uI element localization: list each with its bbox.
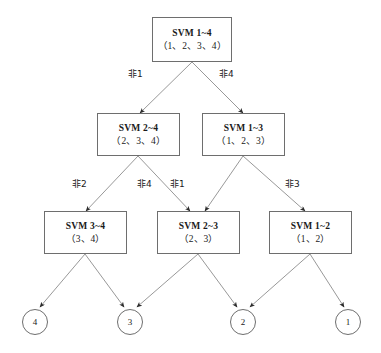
leaf-node-leaf3[interactable]: 3 [117,309,143,335]
leaf-node-label: 1 [346,318,351,327]
edge-svm14-to-svm24 [140,62,192,113]
svm-node-svm14[interactable]: SVM 1~4（1、2、3、4） [152,17,232,62]
leaf-node-leaf2[interactable]: 2 [230,309,256,335]
svm-node-class-set: （1、2） [291,233,331,246]
svm-node-svm24[interactable]: SVM 2~4（2、3、4） [97,113,180,156]
edge-svm14-to-svm13 [192,62,243,113]
svm-node-svm23[interactable]: SVM 2~3（2、3） [157,211,240,254]
leaf-node-leaf1[interactable]: 1 [335,309,361,335]
leaf-node-label: 4 [33,318,38,327]
svm-node-title: SVM 3~4 [66,220,105,233]
svm-node-title: SVM 2~4 [119,122,158,135]
edge-label-e-not3-mid: 非3 [285,180,300,189]
svm-node-class-set: （2、3） [179,233,219,246]
leaf-node-leaf4[interactable]: 4 [22,309,48,335]
edge-svm34-to-leaf4 [40,254,85,307]
svm-node-title: SVM 1~3 [224,122,263,135]
edge-svm24-to-svm34 [86,156,138,211]
edge-svm12-to-leaf1 [310,254,344,307]
svm-node-class-set: （1、2、3、4） [158,40,227,53]
svm-node-title: SVM 1~2 [291,220,330,233]
edge-label-e-not4-top: 非4 [219,70,234,79]
svm-node-svm12[interactable]: SVM 1~2（1、2） [269,211,352,254]
edge-label-e-not2-mid: 非2 [72,180,87,189]
svm-node-svm13[interactable]: SVM 1~3（1、2、3） [202,113,285,156]
svm-node-class-set: （1、2、3） [216,135,270,148]
svm-node-title: SVM 1~4 [172,27,211,40]
edge-label-e-not4-mid: 非4 [137,180,152,189]
svm-node-class-set: （3、4） [66,233,106,246]
leaf-node-label: 2 [241,318,246,327]
edge-label-e-not1-mid: 非1 [170,180,185,189]
svm-node-title: SVM 2~3 [179,220,218,233]
svm-node-class-set: （2、3、4） [111,135,165,148]
edge-svm23-to-leaf3 [137,254,198,307]
edge-label-e-not1-top: 非1 [128,70,143,79]
edge-svm34-to-leaf3 [85,254,124,307]
edge-svm23-to-leaf2 [198,254,237,307]
dag-svm-diagram: SVM 1~4（1、2、3、4）SVM 2~4（2、3、4）SVM 1~3（1、… [0,0,381,353]
leaf-node-label: 3 [128,318,133,327]
edge-svm13-to-svm23 [205,156,243,211]
svm-node-svm34[interactable]: SVM 3~4（3、4） [44,211,127,254]
edge-svm12-to-leaf2 [250,254,310,307]
